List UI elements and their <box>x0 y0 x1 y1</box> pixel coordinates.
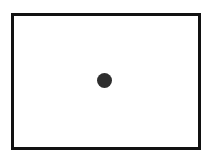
center-dot <box>97 73 112 88</box>
